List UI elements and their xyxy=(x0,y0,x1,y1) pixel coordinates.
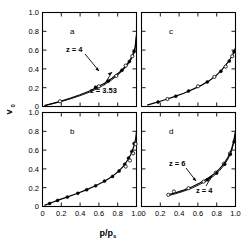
ytick-a-3: 0.6 xyxy=(29,46,39,55)
panel-label-b: b xyxy=(70,127,75,136)
ytick-a-4: 0.8 xyxy=(29,27,39,36)
panel-b-ticks xyxy=(43,113,137,207)
panel-label-a: a xyxy=(70,27,75,36)
x-axis-title-main: p/p xyxy=(100,228,114,238)
ytick-b-5: 1.0 xyxy=(29,108,39,117)
panel-label-c: c xyxy=(169,27,173,36)
xtick-right-2: 0.4 xyxy=(174,209,184,218)
xtick-left-0: 0 xyxy=(40,209,44,218)
y-axis-title-sub: 0 xyxy=(10,104,16,108)
panel-a-ytick-labels: 0 0.2 0.4 0.6 0.8 1.0 xyxy=(29,8,39,111)
panel-a-annotation-z353: z = 3.53 xyxy=(90,86,117,95)
xtick-right-4: 0.8 xyxy=(211,209,221,218)
panel-b: 0 0.2 0.4 0.6 0.8 1.0 b xyxy=(29,108,138,211)
ytick-b-3: 0.6 xyxy=(29,146,39,155)
xtick-left-3: 0.6 xyxy=(94,209,104,218)
ytick-b-0: 0 xyxy=(35,202,39,211)
xtick-right-1: 0.2 xyxy=(155,209,165,218)
ytick-a-5: 1.0 xyxy=(29,8,39,17)
y-axis-title: v 0 xyxy=(4,104,16,115)
panel-c-filled-markers xyxy=(157,50,236,103)
panel-d: d z = 6 z = 4 xyxy=(142,113,236,207)
panel-d-frame xyxy=(142,113,236,207)
xtick-left-1: 0.2 xyxy=(56,209,66,218)
panel-c-curve-fit xyxy=(147,48,235,105)
panel-c: c xyxy=(142,13,236,107)
ytick-a-1: 0.2 xyxy=(29,84,39,93)
ytick-b-1: 0.2 xyxy=(29,184,39,193)
x-axis-title-sub: s xyxy=(113,233,117,239)
xtick-left-4: 0.8 xyxy=(112,209,122,218)
panel-b-filled-markers xyxy=(48,142,136,205)
panel-a: 0 0.2 0.4 0.6 0.8 1.0 a z = 4 z = 3.53 xyxy=(29,8,137,111)
xtick-right-0: 0 xyxy=(141,209,145,218)
panel-d-annotation-z6: z = 6 xyxy=(169,159,185,168)
xtick-labels-left: 0 0.2 0.4 0.6 0.8 1.0 xyxy=(40,209,141,218)
xtick-left-2: 0.4 xyxy=(75,209,85,218)
ytick-a-2: 0.4 xyxy=(29,65,39,74)
panel-a-filled-markers xyxy=(94,50,136,89)
panel-b-ytick-labels: 0 0.2 0.4 0.6 0.8 1.0 xyxy=(29,108,39,211)
xtick-labels-right: 0 0.2 0.4 0.6 0.8 1.0 xyxy=(141,209,240,218)
xtick-left-5: 1.0 xyxy=(131,209,141,218)
panel-d-ticks xyxy=(142,113,236,207)
panel-d-annotation-z4: z = 4 xyxy=(196,186,213,195)
figure-root: 0 0.2 0.4 0.6 0.8 1.0 a z = 4 z = 3.53 xyxy=(0,0,244,240)
ytick-b-2: 0.4 xyxy=(29,165,39,174)
y-axis-title-main: v xyxy=(4,109,14,114)
x-axis-title: p/p s xyxy=(100,228,118,239)
panel-label-d: d xyxy=(169,127,173,136)
panel-b-frame xyxy=(43,113,137,207)
xtick-right-5: 1.0 xyxy=(230,209,240,218)
panel-d-filled-markers xyxy=(206,140,236,181)
panel-b-curve-fit xyxy=(44,131,136,205)
panel-a-annotation-z4: z = 4 xyxy=(66,45,83,54)
xtick-right-3: 0.6 xyxy=(193,209,203,218)
panel-c-open-markers xyxy=(166,55,234,101)
panel-a-open-markers xyxy=(58,55,133,103)
ytick-b-4: 0.8 xyxy=(29,127,39,136)
